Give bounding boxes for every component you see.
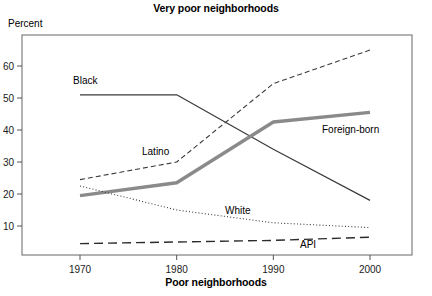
x-tick-label: 1970 — [69, 264, 92, 275]
x-tick-label: 1990 — [262, 264, 285, 275]
series-label-white: White — [225, 205, 251, 216]
y-tick-label: 60 — [3, 61, 15, 72]
x-tick-label: 1980 — [166, 264, 189, 275]
y-tick-label: 20 — [3, 189, 15, 200]
y-tick-label: 10 — [3, 221, 15, 232]
series-line-black — [80, 95, 370, 201]
plot-frame — [22, 35, 412, 255]
x-tick-label: 2000 — [359, 264, 382, 275]
x-axis-ticks: 1970198019902000 — [69, 255, 382, 275]
series-line-api — [80, 237, 370, 243]
series-label-black: Black — [73, 75, 98, 86]
series-label-api: API — [300, 239, 316, 250]
chart-container: Very poor neighborhoods Percent 10203040… — [0, 0, 432, 296]
y-tick-label: 30 — [3, 157, 15, 168]
chart-plot: 102030405060 1970198019902000 Black Lati… — [0, 0, 432, 296]
y-tick-label: 40 — [3, 125, 15, 136]
y-axis-ticks: 102030405060 — [3, 61, 22, 232]
bottom-caption: Poor neighborhoods — [0, 276, 432, 288]
y-tick-label: 50 — [3, 93, 15, 104]
series-label-foreign-born: Foreign-born — [322, 124, 379, 135]
series-label-latino: Latino — [142, 146, 170, 157]
series-line-latino — [80, 50, 370, 180]
